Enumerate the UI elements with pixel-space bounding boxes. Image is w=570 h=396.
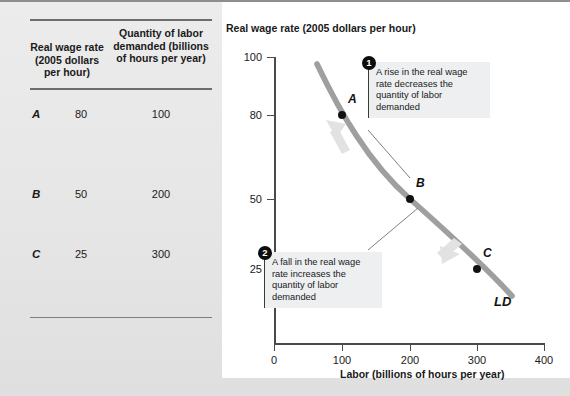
data-table: Real wage rate (2005 dollars per hour) Q… [0, 2, 222, 396]
table-cell-wage-b: 50 [50, 188, 112, 200]
labor-demand-curve [222, 2, 570, 378]
data-point-a [338, 111, 346, 119]
chart-panel: Real wage rate (2005 dollars per hour) L… [222, 2, 570, 378]
table-row-label-c: C [32, 248, 48, 260]
table-cell-wage-a: 80 [50, 108, 112, 120]
data-point-c [473, 265, 481, 273]
table-row-label-a: A [32, 108, 48, 120]
data-point-label-a: A [348, 92, 357, 106]
table-cell-quantity-c: 300 [118, 248, 204, 260]
table-header-rule [30, 88, 212, 90]
data-point-label-c: C [483, 246, 492, 260]
table-bottom-rule [30, 317, 212, 318]
table-cell-quantity-a: 100 [118, 108, 204, 120]
column-header-quantity: Quantity of labor demanded (billions of … [112, 27, 210, 65]
annotation-callout-1: A rise in the real wage rate decreases t… [368, 62, 490, 118]
annotation-callout-2: A fall in the real wage rate increases t… [264, 252, 382, 308]
annotation-badge-1: 1 [362, 56, 376, 70]
table-row-label-b: B [32, 188, 48, 200]
table-top-rule [30, 19, 212, 21]
figure-root: Real wage rate (2005 dollars per hour) Q… [0, 0, 570, 396]
table-cell-wage-c: 25 [50, 248, 112, 260]
table-cell-quantity-b: 200 [118, 188, 204, 200]
data-point-label-b: B [416, 176, 425, 190]
annotation-badge-2: 2 [258, 246, 272, 260]
curve-label-ld: LD [494, 294, 511, 309]
data-point-b [406, 195, 414, 203]
column-header-wage: Real wage rate (2005 dollars per hour) [28, 41, 106, 79]
plot-area: Real wage rate (2005 dollars per hour) L… [222, 2, 570, 378]
